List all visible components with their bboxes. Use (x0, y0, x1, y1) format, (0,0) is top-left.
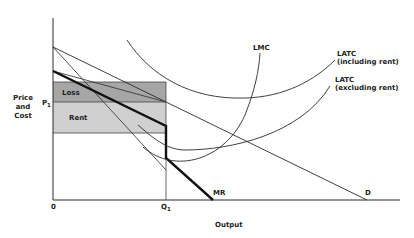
x-axis-label: Output (215, 221, 243, 229)
d-label: D (365, 189, 371, 197)
economics-chart: Loss Rent Price and Cost P 1 0 Q 1 Outpu… (0, 0, 414, 238)
loss-label: Loss (62, 89, 80, 97)
p1-subscript: 1 (47, 102, 51, 108)
q1-subscript: 1 (167, 206, 171, 212)
y-axis-label-line3: Cost (14, 112, 32, 120)
rent-label: Rent (69, 114, 88, 122)
y-axis-label-line1: Price (13, 94, 33, 102)
mr-label: MR (213, 189, 226, 197)
latc-excl-label-line2: (excluding rent) (335, 84, 399, 92)
y-axis-label-line2: and (16, 103, 31, 111)
lmc-label: LMC (253, 44, 270, 52)
latc-excl-label-line1: LATC (335, 76, 354, 84)
latc-incl-label-line1: LATC (337, 50, 356, 58)
latc-incl-label-line2: (including rent) (337, 58, 399, 66)
origin-label: 0 (51, 203, 56, 211)
